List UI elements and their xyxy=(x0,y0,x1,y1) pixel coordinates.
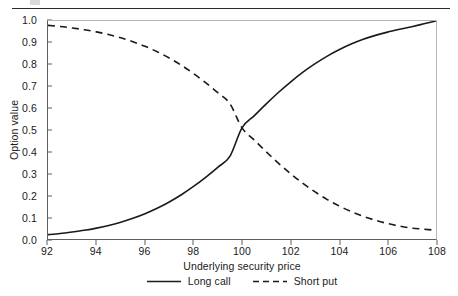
series-line-short-put xyxy=(48,25,436,230)
page-divider-rule xyxy=(12,8,450,9)
legend-label: Long call xyxy=(188,275,231,287)
legend-dashed-line-icon xyxy=(253,278,287,285)
y-axis-ticklabels: 0.00.10.20.30.40.50.60.70.80.91.0 xyxy=(0,20,43,240)
y-axis-ticklabel: 0.2 xyxy=(22,191,37,202)
y-axis-ticklabel: 0.1 xyxy=(22,213,37,224)
y-axis-ticklabel: 0.9 xyxy=(22,37,37,48)
x-axis-ticklabel: 102 xyxy=(282,246,300,257)
legend-label: Short put xyxy=(294,275,338,287)
y-axis-ticklabel: 0.8 xyxy=(22,59,37,70)
chart-figure: Option value 0.00.10.20.30.40.50.60.70.8… xyxy=(0,0,458,296)
x-axis-ticklabel: 108 xyxy=(428,246,446,257)
y-axis-ticklabel: 0.6 xyxy=(22,103,37,114)
x-axis-ticklabel: 94 xyxy=(90,246,102,257)
y-axis-ticklabel: 0.5 xyxy=(22,125,37,136)
x-axis-ticklabel: 96 xyxy=(139,246,151,257)
y-axis-ticklabel: 0.4 xyxy=(22,147,37,158)
plot-area xyxy=(47,20,437,240)
x-axis-ticklabel: 92 xyxy=(41,246,53,257)
y-axis-ticklabel: 0.0 xyxy=(22,235,37,246)
legend-entry[interactable]: Long call xyxy=(147,275,231,287)
plot-canvas xyxy=(48,21,436,239)
x-axis-title: Underlying security price xyxy=(47,260,437,272)
x-axis-ticklabel: 98 xyxy=(187,246,199,257)
page-text-fragment xyxy=(30,0,40,5)
y-axis-ticklabel: 0.3 xyxy=(22,169,37,180)
chart-legend: Long callShort put xyxy=(47,275,437,287)
x-axis-ticklabel: 100 xyxy=(233,246,251,257)
x-axis-ticklabel: 104 xyxy=(331,246,349,257)
y-axis-ticklabel: 0.7 xyxy=(22,81,37,92)
x-axis-ticklabel: 106 xyxy=(379,246,397,257)
legend-entry[interactable]: Short put xyxy=(253,275,338,287)
y-axis-ticklabel: 1.0 xyxy=(22,15,37,26)
legend-solid-line-icon xyxy=(147,278,181,285)
